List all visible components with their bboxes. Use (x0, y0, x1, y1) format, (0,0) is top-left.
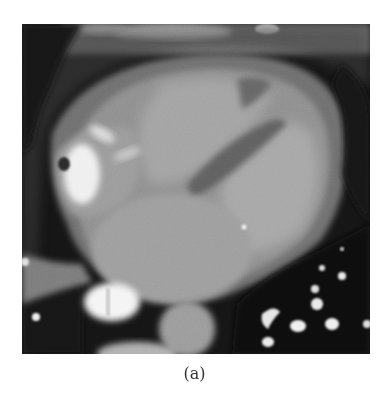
figure-caption: (a) (0, 364, 389, 383)
ct-scan-image (22, 24, 370, 354)
figure: (a) (0, 0, 389, 408)
